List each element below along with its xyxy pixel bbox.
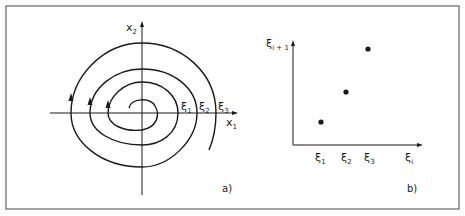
figure: x2 x1 ξ1 ξ2 ξ3 a) ξi + 1 ξi ξ1 ξ2 ξ3 b) — [0, 0, 465, 216]
panel-b: ξi + 1 ξi ξ1 ξ2 ξ3 b) — [266, 37, 423, 194]
panel-a-label: a) — [222, 183, 232, 194]
crossing-label-xi1: ξ1 — [181, 100, 192, 115]
panel-b-label: b) — [407, 183, 417, 194]
xi-axis-arrow-icon — [417, 143, 423, 147]
xi-next-axis-arrow-icon — [291, 40, 295, 46]
data-point — [365, 46, 370, 51]
x1-axis-label: x1 — [226, 116, 237, 131]
x2-axis-label: x2 — [126, 21, 137, 36]
xi-next-axis-label: ξi + 1 — [266, 37, 289, 52]
xi-axis-label: ξi — [405, 151, 413, 166]
tick-label-xi2: ξ2 — [341, 151, 352, 166]
crossing-label-xi3: ξ3 — [218, 100, 229, 115]
crossing-label-xi2: ξ2 — [199, 100, 210, 115]
spiral-trajectory — [71, 43, 216, 167]
panel-a: x2 x1 ξ1 ξ2 ξ3 a) — [50, 21, 238, 195]
data-point — [318, 119, 323, 124]
x2-axis-arrow-icon — [140, 21, 144, 27]
tick-label-xi3: ξ3 — [364, 151, 375, 166]
data-point — [343, 89, 348, 94]
figure-frame — [6, 6, 459, 209]
tick-label-xi1: ξ1 — [315, 151, 326, 166]
x1-axis-arrow-icon — [232, 111, 238, 115]
